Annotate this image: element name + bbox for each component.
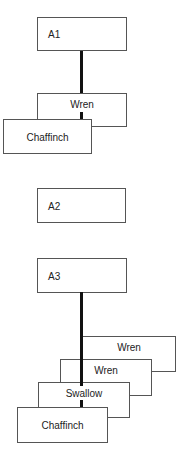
node-a1-label: A1	[48, 29, 60, 40]
stack-item-label: Chaffinch	[18, 420, 107, 431]
connector-a1	[80, 50, 83, 98]
node-a2[interactable]: A2	[37, 188, 126, 223]
connector-a3	[80, 292, 83, 386]
stack-item-label: Wren	[61, 365, 151, 376]
stack-item-label: Wren	[83, 342, 175, 353]
node-a1[interactable]: A1	[37, 17, 127, 51]
stack-item-chaffinch[interactable]: Chaffinch	[3, 119, 92, 154]
node-a2-label: A2	[48, 200, 60, 211]
stack-item-chaffinch[interactable]: Chaffinch	[17, 407, 108, 443]
node-a3[interactable]: A3	[37, 258, 127, 293]
stack-item-label: Wren	[38, 99, 126, 110]
node-a3-label: A3	[48, 270, 60, 281]
stack-item-label: Swallow	[39, 388, 129, 399]
stack-item-label: Chaffinch	[4, 131, 91, 142]
